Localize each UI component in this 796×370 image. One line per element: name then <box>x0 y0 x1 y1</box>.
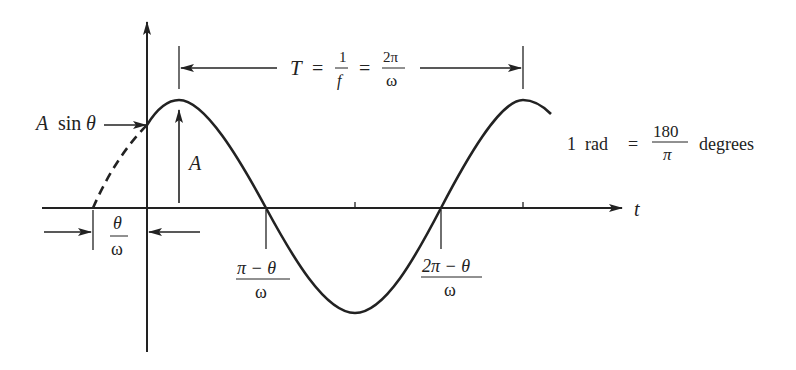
sinusoid-curve <box>147 100 551 313</box>
svg-text:f: f <box>337 72 344 90</box>
radian-conversion-label: 1 rad = 180 π degrees <box>567 122 754 164</box>
svg-text:A: A <box>34 112 49 134</box>
svg-text:sin: sin <box>58 112 81 134</box>
sinusoid-diagram: t T = 1 f = 2π ω A sin θ A θ ω <box>0 0 796 370</box>
svg-text:degrees: degrees <box>699 134 754 154</box>
zero-crossing-1-label: π − θ ω <box>236 210 290 302</box>
period-label: T = 1 f = 2π ω <box>290 49 405 90</box>
svg-text:ω: ω <box>444 280 456 300</box>
svg-text:2π: 2π <box>383 49 399 65</box>
svg-text:1 rad: 1 rad <box>567 134 608 154</box>
x-axis-label: t <box>634 198 640 220</box>
svg-text:=: = <box>359 57 370 79</box>
amplitude-indicator: A <box>179 110 202 203</box>
svg-text:θ: θ <box>113 213 122 233</box>
zero-crossing-2-label: 2π − θ ω <box>421 210 482 300</box>
a-sin-theta-label: A sin θ <box>34 112 146 134</box>
phase-offset-dimension: θ ω <box>44 210 200 259</box>
svg-text:180: 180 <box>653 122 679 141</box>
svg-text:π − θ: π − θ <box>237 258 276 278</box>
svg-text:ω: ω <box>255 282 267 302</box>
period-dimension <box>179 46 523 89</box>
svg-text:ω: ω <box>386 71 397 90</box>
svg-text:ω: ω <box>111 239 123 259</box>
svg-text:=: = <box>628 134 638 154</box>
svg-text:π: π <box>663 145 672 164</box>
svg-text:1: 1 <box>339 49 347 65</box>
svg-text:2π − θ: 2π − θ <box>422 256 470 276</box>
x-axis <box>42 202 622 208</box>
svg-text:θ: θ <box>86 112 96 134</box>
svg-text:T: T <box>290 56 303 80</box>
svg-text:=: = <box>312 57 323 79</box>
sinusoid-dashed-extension <box>93 125 147 208</box>
svg-text:A: A <box>187 152 202 174</box>
